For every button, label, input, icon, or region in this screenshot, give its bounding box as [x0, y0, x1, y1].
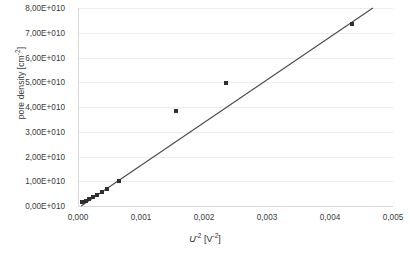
data-point: [350, 22, 354, 26]
x-axis-tick-label: 0,005: [370, 213, 410, 222]
x-axis-title: U-2 [V-2]: [0, 234, 410, 244]
data-point: [174, 109, 178, 113]
y-axis-tick-label: 0,00E+010: [3, 202, 65, 211]
x-axis-line: [78, 206, 393, 207]
gridline: [78, 8, 393, 9]
gridline: [78, 107, 393, 108]
gridline: [78, 181, 393, 182]
gridline: [78, 157, 393, 158]
y-axis-tick-label: 7,00E+010: [3, 28, 65, 37]
gridline: [78, 132, 393, 133]
chart-container: pore density [cm-2] U-2 [V-2] 0,00E+0101…: [0, 0, 410, 266]
data-point: [95, 193, 99, 197]
gridline: [78, 82, 393, 83]
data-point: [117, 179, 121, 183]
x-axis-tick-label: 0,001: [118, 213, 164, 222]
x-axis-tick-label: 0,003: [244, 213, 290, 222]
y-axis-tick-label: 3,00E+010: [3, 127, 65, 136]
gridline: [78, 33, 393, 34]
y-axis-tick-label: 4,00E+010: [3, 103, 65, 112]
gridline: [78, 58, 393, 59]
y-axis-tick-label: 6,00E+010: [3, 53, 65, 62]
y-axis-tick-label: 5,00E+010: [3, 78, 65, 87]
x-axis-tick-label: 0,004: [307, 213, 353, 222]
data-point: [105, 187, 109, 191]
y-axis-line: [78, 8, 79, 206]
x-axis-tick-label: 0,002: [181, 213, 227, 222]
x-axis-tick-label: 0,000: [55, 213, 101, 222]
data-point: [100, 190, 104, 194]
x-axis-unit-exponent: -2: [213, 232, 219, 239]
y-axis-tick-label: 8,00E+010: [3, 4, 65, 13]
data-point: [224, 81, 228, 85]
x-axis-title-exponent: -2: [196, 232, 202, 239]
y-axis-tick-label: 2,00E+010: [3, 152, 65, 161]
y-axis-title-tail: ]: [16, 47, 26, 49]
y-axis-tick-label: 1,00E+010: [3, 177, 65, 186]
